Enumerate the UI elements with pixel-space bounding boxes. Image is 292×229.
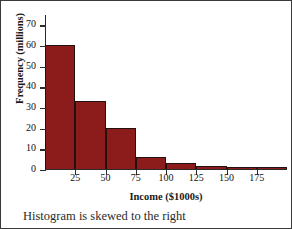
y-axis-tick: 40	[40, 87, 46, 88]
x-axis-tick-label: 150	[219, 172, 234, 183]
x-axis-tick-label: 75	[131, 172, 141, 183]
y-axis-tick: 60	[40, 46, 46, 47]
x-axis-tick-label: 50	[101, 172, 111, 183]
y-axis-tick: 50	[40, 67, 46, 68]
histogram-figure: Frequency (millions) 010203040506070 255…	[0, 0, 292, 229]
y-axis-title: Frequency (millions)	[14, 0, 25, 129]
histogram-bar	[196, 166, 226, 169]
histogram-bar	[106, 128, 136, 169]
x-axis-tick-label: 25	[70, 172, 80, 183]
x-axis-tick-label: 175	[249, 172, 264, 183]
y-axis-tick-label: 30	[26, 101, 36, 112]
y-axis-tick: 0	[40, 170, 46, 171]
y-axis-tick-label: 50	[26, 60, 36, 71]
x-axis-title: Income ($1000s)	[45, 191, 287, 202]
y-axis-tick-label: 20	[26, 122, 36, 133]
x-axis-tick-label: 100	[159, 172, 174, 183]
y-axis-tick-label: 10	[26, 142, 36, 153]
y-axis-tick: 10	[40, 149, 46, 150]
histogram-bar	[257, 167, 287, 169]
y-axis-tick-label: 0	[31, 163, 36, 174]
x-axis-tick-label: 125	[189, 172, 204, 183]
histogram-bar	[166, 163, 196, 169]
histogram-bar	[45, 45, 75, 169]
histogram-bar	[227, 167, 257, 169]
histogram-bar	[75, 101, 105, 169]
y-axis-tick-label: 40	[26, 80, 36, 91]
y-axis-tick: 20	[40, 129, 46, 130]
histogram-bar	[136, 157, 166, 169]
figure-caption: Histogram is skewed to the right	[23, 209, 186, 224]
y-axis-tick: 70	[40, 25, 46, 26]
y-axis-tick-label: 60	[26, 39, 36, 50]
y-axis-tick: 30	[40, 108, 46, 109]
y-axis-tick-label: 70	[26, 18, 36, 29]
plot-area: 010203040506070 255075100125150175	[45, 15, 287, 170]
